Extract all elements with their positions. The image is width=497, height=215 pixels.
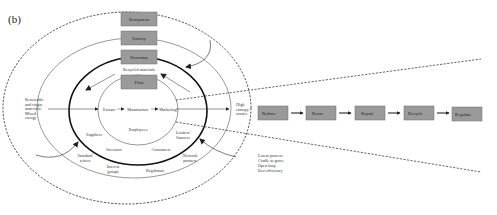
society-box: Society xyxy=(121,31,157,45)
svg-text:groups: groups xyxy=(107,169,119,174)
svg-text:wastes: wastes xyxy=(236,111,248,116)
consumers-label: Consumers xyxy=(152,147,171,152)
regulate-box: Regulate xyxy=(452,107,482,121)
lenders-insurers-label: Lenders/ Insurers xyxy=(176,130,191,140)
svg-text:partners: partners xyxy=(183,158,197,163)
outputs-text: High entropy wastes xyxy=(236,102,250,116)
svg-text:Insurers: Insurers xyxy=(176,135,190,140)
extract-label: Extract xyxy=(103,107,116,112)
reduce-box: Reduce xyxy=(258,106,288,120)
svg-text:Regulate: Regulate xyxy=(455,112,471,117)
svg-text:Eco-efficiency: Eco-efficiency xyxy=(258,168,283,173)
input-feedback-arrow xyxy=(36,142,78,157)
r-chain: Reduce Reuse Repair Recycle Regulate xyxy=(258,106,482,121)
recycle-arrow-left xyxy=(86,74,115,90)
firm-box: Firm xyxy=(121,75,157,89)
output-feedback-arrow xyxy=(200,139,236,157)
economy-label: Economy xyxy=(130,55,148,60)
circular-economy-diagram: (b) Ecosystem Society Economy Firm Recyc… xyxy=(0,0,497,215)
svg-text:Repair: Repair xyxy=(361,111,374,116)
recycle-arrow-right xyxy=(161,74,190,92)
recycled-materials-label: Recycled materials xyxy=(123,67,155,72)
network-partners-label: Network partners xyxy=(183,153,199,163)
society-label: Society xyxy=(132,36,146,41)
projection-line-bottom xyxy=(176,122,481,172)
ecosystem-box: Ecosystem xyxy=(121,12,157,26)
inputs-text: Renewable and virgin materials/ Mixed en… xyxy=(25,97,44,120)
economy-box: Economy xyxy=(121,50,157,64)
manufacture-label: Manufacture xyxy=(127,107,149,112)
employees-label: Employees xyxy=(129,127,148,132)
svg-text:Recycle: Recycle xyxy=(408,111,423,116)
repair-box: Repair xyxy=(355,106,385,120)
firm-label: Firm xyxy=(135,80,144,85)
svg-text:Reduce: Reduce xyxy=(262,111,276,116)
panel-label: (b) xyxy=(8,13,21,26)
projection-line-top xyxy=(176,59,481,100)
svg-text:energy: energy xyxy=(25,115,37,120)
suppliers-label: Suppliers xyxy=(86,132,102,137)
process-notes: Linear process Cradle to grave Open loop… xyxy=(258,153,284,173)
regulators-label: Regulators xyxy=(146,168,165,173)
investors-label: Investors xyxy=(106,147,122,152)
interest-groups-label: Interest groups xyxy=(107,164,120,174)
recycle-box: Recycle xyxy=(404,106,434,120)
ecosystem-feedback-arrow xyxy=(186,40,211,67)
svg-text:setters: setters xyxy=(80,158,91,163)
svg-text:Reuse: Reuse xyxy=(312,111,323,116)
standard-setters-label: Standard setters xyxy=(78,153,94,163)
marketing-label: Marketing xyxy=(159,107,177,112)
ecosystem-label: Ecosystem xyxy=(129,17,149,22)
reuse-box: Reuse xyxy=(306,106,336,120)
